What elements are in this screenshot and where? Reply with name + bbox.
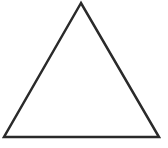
triangle-outline bbox=[4, 3, 159, 137]
triangle-diagram bbox=[0, 0, 168, 148]
